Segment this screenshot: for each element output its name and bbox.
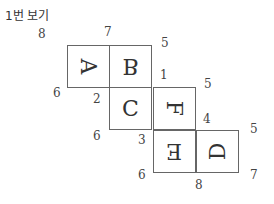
face-letter: B (122, 54, 138, 79)
vertex-label: 8 (195, 178, 203, 192)
face-letter: C (122, 96, 139, 121)
face-e: E (153, 130, 196, 173)
face-d: D (196, 130, 239, 173)
vertex-label: 8 (38, 27, 46, 41)
vertex-label: 1 (160, 68, 168, 82)
diagram-title: 1번 보기 (5, 6, 49, 23)
vertex-label: 5 (204, 77, 212, 91)
face-letter: D (205, 143, 230, 161)
face-b: B (109, 45, 152, 88)
vertex-label: 6 (138, 168, 146, 182)
vertex-label: 7 (250, 168, 258, 182)
vertex-label: 5 (161, 36, 169, 50)
vertex-label: 7 (104, 25, 112, 39)
vertex-label: 5 (250, 122, 258, 136)
face-f: F (153, 87, 196, 130)
vertex-label: 4 (203, 112, 211, 126)
face-letter: F (162, 101, 187, 116)
face-a: A (67, 45, 110, 88)
face-letter: A (76, 59, 101, 75)
vertex-label: 6 (93, 129, 101, 143)
vertex-label: 6 (53, 86, 61, 100)
vertex-label: 2 (93, 92, 101, 106)
vertex-label: 3 (138, 133, 146, 147)
face-c: C (109, 87, 152, 130)
face-letter: E (166, 139, 182, 164)
